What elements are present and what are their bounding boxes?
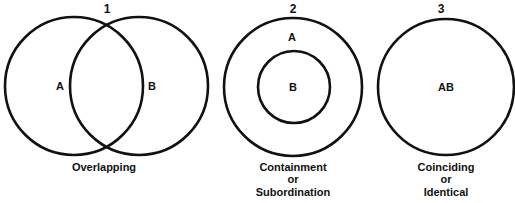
diagram-number: 2 bbox=[290, 2, 297, 16]
circle-a bbox=[5, 17, 143, 155]
caption-line: Coinciding bbox=[418, 161, 475, 173]
caption-line: Containment bbox=[259, 161, 327, 173]
circle-b bbox=[70, 17, 208, 155]
diagram-containment: 2 A B Containment or Subordination bbox=[224, 2, 362, 198]
set-relations-diagram: 1 A B Overlapping 2 A B Containment or S… bbox=[0, 0, 515, 203]
caption-line: Subordination bbox=[256, 186, 331, 198]
diagram-number: 1 bbox=[104, 2, 111, 16]
diagram-coinciding: 3 AB Coinciding or Identical bbox=[378, 2, 514, 198]
caption-line: or bbox=[288, 173, 300, 185]
diagram-overlapping: 1 A B Overlapping bbox=[5, 2, 208, 173]
set-label-b: B bbox=[148, 80, 156, 92]
set-label-b: B bbox=[289, 81, 297, 93]
caption-line: Identical bbox=[424, 186, 469, 198]
caption-line: Overlapping bbox=[72, 161, 136, 173]
set-label-ab: AB bbox=[438, 81, 454, 93]
set-label-a: A bbox=[288, 31, 296, 43]
caption-line: or bbox=[441, 173, 453, 185]
set-label-a: A bbox=[56, 80, 64, 92]
diagram-number: 3 bbox=[438, 2, 445, 16]
